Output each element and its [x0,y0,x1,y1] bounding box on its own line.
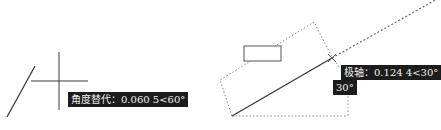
cursor-marker-icon [328,54,336,62]
polar-tooltip: 极轴：0.124 4<30° [341,65,441,80]
small-rectangle [244,46,281,61]
dotted-rotated-rectangle [220,22,332,116]
polar-tracking-line [332,0,439,58]
left-figure [7,52,88,117]
angle-override-tooltip: 角度替代：0.060 5<60° [68,92,188,107]
angled-line [7,66,35,117]
solid-line [232,58,332,116]
right-figure [220,0,439,116]
angle-tooltip: 30° [333,80,357,95]
